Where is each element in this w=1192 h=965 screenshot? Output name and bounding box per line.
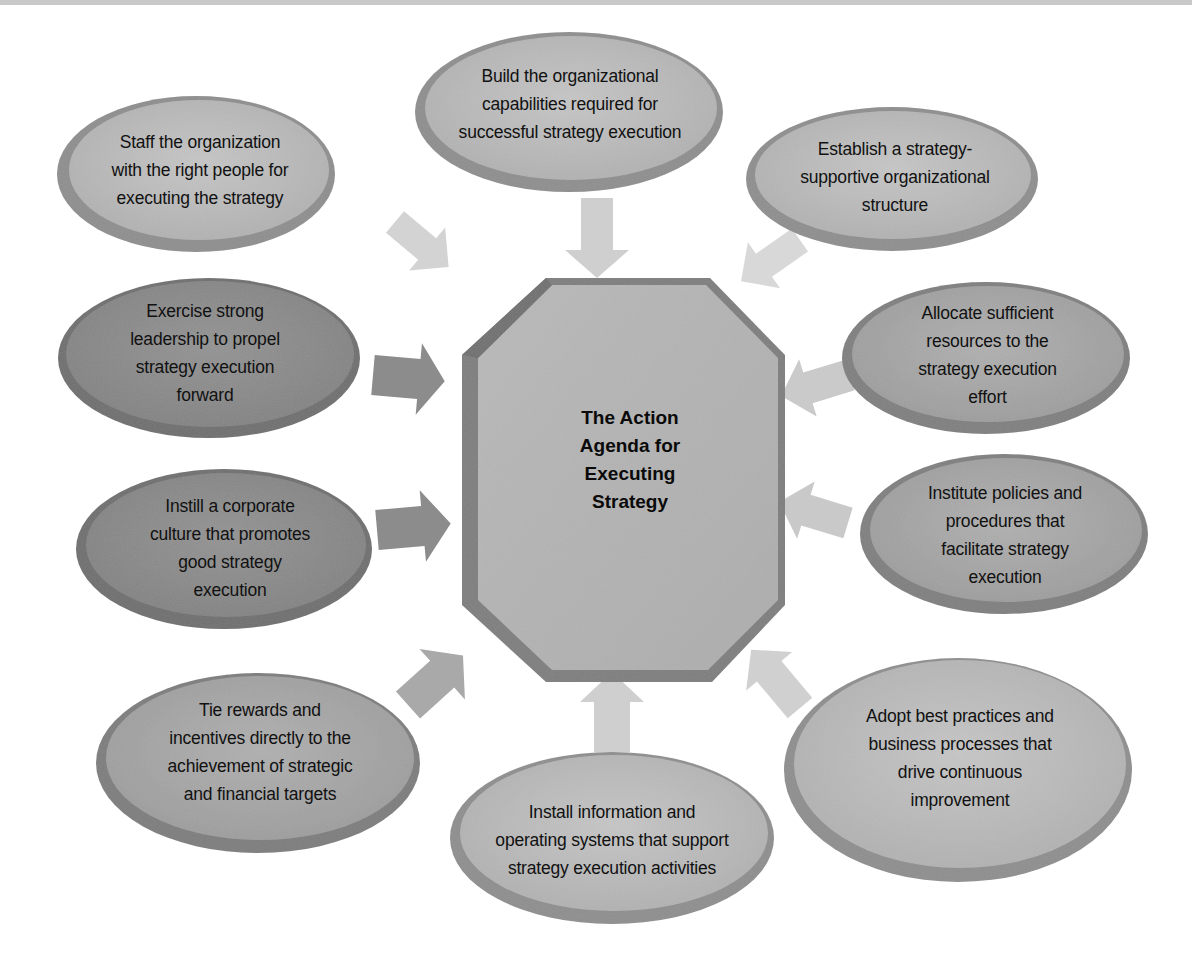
node-text-line: culture that promotes xyxy=(150,520,310,548)
node-text-line: Instill a corporate xyxy=(150,492,310,520)
node-text-line: strategy execution xyxy=(130,353,280,381)
node-text-line: with the right people for xyxy=(112,156,289,184)
node-practices: Adopt best practices and business proces… xyxy=(835,700,1085,816)
node-text-line: good strategy xyxy=(150,548,310,576)
node-text-line: strategy execution activities xyxy=(495,854,728,882)
node-text-line: successful strategy execution xyxy=(459,118,682,146)
center-title-line: Strategy xyxy=(580,488,680,516)
node-text-line: executing the strategy xyxy=(112,184,289,212)
node-resources: Allocate sufficient resources to the str… xyxy=(875,297,1100,413)
node-text-line: facilitate strategy xyxy=(928,535,1082,563)
arrow-icon-rewards xyxy=(385,630,485,730)
node-capabilities: Build the organizational capabilities re… xyxy=(425,54,715,154)
node-text-line: Exercise strong xyxy=(130,297,280,325)
arrow-icon-leadership xyxy=(370,339,448,417)
node-text-line: resources to the xyxy=(918,327,1056,355)
node-text-line: business processes that xyxy=(866,730,1054,758)
node-text-line: operating systems that support xyxy=(495,826,728,854)
node-text-line: Adopt best practices and xyxy=(866,702,1054,730)
center-title-line: The Action xyxy=(580,404,680,432)
node-rewards: Tie rewards and incentives directly to t… xyxy=(130,694,390,810)
center-title: The Action Agenda for Executing Strategy xyxy=(530,400,730,520)
center-title-line: Agenda for xyxy=(580,432,680,460)
node-text-line: Staff the organization xyxy=(112,128,289,156)
node-text-line: supportive organizational xyxy=(800,163,990,191)
node-policies: Institute policies and procedures that f… xyxy=(890,477,1120,593)
node-leadership: Exercise strong leadership to propel str… xyxy=(95,295,315,411)
node-text-line: Allocate sufficient xyxy=(918,299,1056,327)
node-text-line: achievement of strategic xyxy=(168,752,353,780)
node-text-line: improvement xyxy=(866,786,1054,814)
node-text-line: drive continuous xyxy=(866,758,1054,786)
node-text-line: Build the organizational xyxy=(459,62,682,90)
node-text-line: incentives directly to the xyxy=(168,724,353,752)
node-text-line: execution xyxy=(928,563,1082,591)
node-text-line: leadership to propel xyxy=(130,325,280,353)
node-text-line: strategy execution xyxy=(918,355,1056,383)
node-text-line: Institute policies and xyxy=(928,479,1082,507)
node-systems: Install information and operating system… xyxy=(462,790,762,890)
node-text-line: and financial targets xyxy=(168,780,353,808)
node-text-line: forward xyxy=(130,381,280,409)
node-text-line: effort xyxy=(918,383,1056,411)
arrow-icon-systems xyxy=(580,672,644,752)
arrow-icon-culture xyxy=(374,488,454,566)
node-text-line: execution xyxy=(150,576,310,604)
node-text-line: Install information and xyxy=(495,798,728,826)
node-culture: Instill a corporate culture that promote… xyxy=(115,490,345,606)
node-text-line: capabilities required for xyxy=(459,90,682,118)
node-text-line: Establish a strategy- xyxy=(800,135,990,163)
arrow-icon-capabilities xyxy=(565,198,629,278)
node-structure: Establish a strategy- supportive organiz… xyxy=(770,127,1020,227)
arrow-icon-staff xyxy=(377,201,467,289)
node-staff: Staff the organization with the right pe… xyxy=(70,120,330,220)
node-text-line: Tie rewards and xyxy=(168,696,353,724)
node-text-line: structure xyxy=(800,191,990,219)
center-title-line: Executing xyxy=(580,460,680,488)
node-text-line: procedures that xyxy=(928,507,1082,535)
